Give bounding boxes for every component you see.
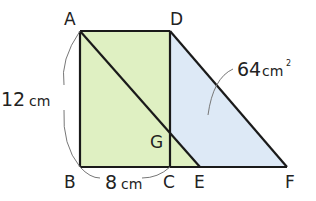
length-bc-value: 8 xyxy=(105,171,117,193)
label-e: E xyxy=(194,172,205,192)
label-d: D xyxy=(170,9,183,29)
label-a: A xyxy=(64,9,76,29)
brace-ab xyxy=(63,31,80,167)
label-b: B xyxy=(64,172,76,192)
area-value: 64 xyxy=(237,58,261,80)
label-f: F xyxy=(285,172,295,192)
length-ab-value: 12 xyxy=(1,88,25,110)
length-bc-unit: cm xyxy=(121,176,142,192)
area-unit: cm xyxy=(262,63,283,79)
label-g: G xyxy=(150,132,163,152)
label-c: C xyxy=(163,172,175,192)
geometry-figure: A D B C E F G 12 cm 8 cm 64 cm 2 xyxy=(0,0,316,201)
length-ab-unit: cm xyxy=(29,93,50,109)
area-unit-superscript: 2 xyxy=(286,59,291,68)
